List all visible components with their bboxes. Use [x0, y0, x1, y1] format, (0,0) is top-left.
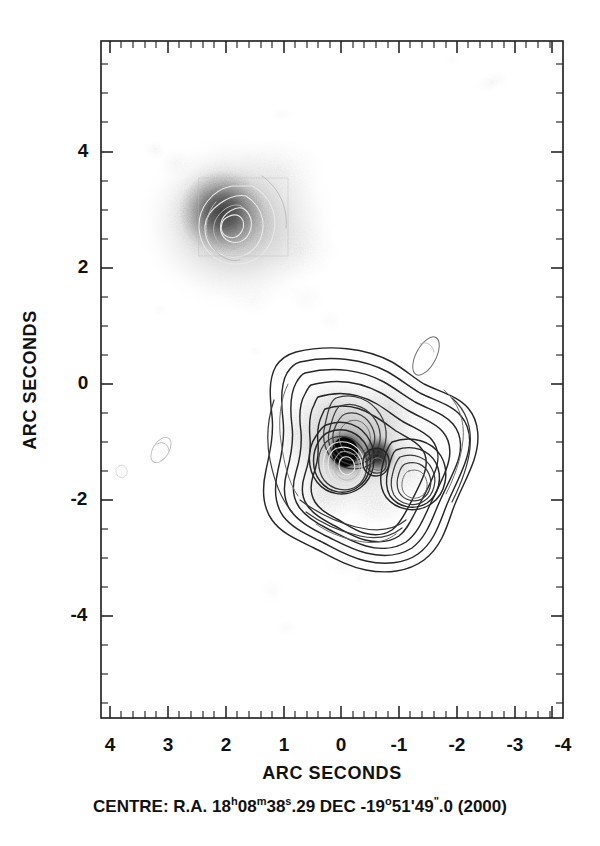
caption-ra-second-fraction: .29 — [291, 797, 315, 816]
figure-container: 4 3 2 1 0 -1 -2 -3 -4 4 2 0 -2 -4 ARC SE… — [0, 0, 600, 846]
y-tick-label: 2 — [78, 256, 89, 277]
caption-ra-seconds: 38 — [266, 797, 285, 816]
x-tick-label: 2 — [221, 734, 232, 755]
caption-dec-label: DEC -19 — [315, 797, 385, 816]
x-tick-label: 0 — [336, 734, 347, 755]
y-tick-label: -2 — [71, 488, 88, 509]
caption-dec-arcmin: 51'49 — [392, 797, 434, 816]
caption-prefix: CENTRE: R.A. 18 — [93, 797, 231, 816]
caption-epoch: (2000) — [453, 797, 507, 816]
x-tick-label: -3 — [507, 734, 524, 755]
y-axis-title: ARC SECONDS — [20, 310, 40, 450]
y-axis-tick-labels: 4 2 0 -2 -4 — [71, 140, 89, 625]
x-tick-label: 4 — [105, 734, 116, 755]
x-tick-label: -4 — [555, 734, 572, 755]
x-axis-title: ARC SECONDS — [262, 763, 402, 783]
y-tick-label: 0 — [78, 372, 89, 393]
y-tick-label: 4 — [78, 140, 89, 161]
caption-ra-minutes: 08 — [238, 797, 257, 816]
caption-ra-minute-mark: m — [257, 795, 267, 807]
centre-coordinates-caption: CENTRE: R.A. 18h08m38s.29 DEC -19o51'49"… — [93, 795, 507, 816]
y-tick-label: -4 — [71, 604, 88, 625]
x-tick-label: 3 — [163, 734, 174, 755]
x-tick-label: -2 — [449, 734, 466, 755]
x-tick-label: -1 — [391, 734, 408, 755]
caption-dec-arcsec-fraction: .0 — [439, 797, 453, 816]
x-tick-label: 1 — [279, 734, 290, 755]
plot-area — [115, 54, 517, 639]
svg-text:CENTRE: R.A. 18h08m38s.29 DE: CENTRE: R.A. 18h08m38s.29 DEC -19o51'49"… — [93, 795, 507, 816]
greyscale-emission-map — [115, 54, 517, 639]
x-axis-tick-labels: 4 3 2 1 0 -1 -2 -3 -4 — [105, 734, 572, 755]
contour-map-svg: 4 3 2 1 0 -1 -2 -3 -4 4 2 0 -2 -4 ARC SE… — [0, 0, 600, 846]
